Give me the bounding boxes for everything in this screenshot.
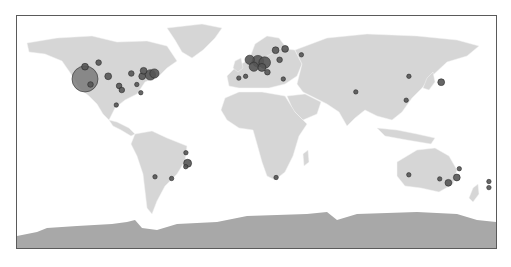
map-marker-us-midwest[interactable] xyxy=(129,71,135,77)
map-marker-india[interactable] xyxy=(354,90,358,94)
map-marker-brazil-south[interactable] xyxy=(184,165,188,169)
map-marker-us-florida[interactable] xyxy=(139,91,143,95)
map-marker-spain[interactable] xyxy=(243,74,247,78)
map-marker-us-central[interactable] xyxy=(119,87,125,93)
map-marker-canada-east[interactable] xyxy=(140,67,147,74)
land-greenland xyxy=(167,24,222,58)
map-marker-australia-south[interactable] xyxy=(438,177,442,181)
land-south-america xyxy=(131,131,187,214)
map-marker-south-china[interactable] xyxy=(404,98,408,102)
map-marker-brazil[interactable] xyxy=(184,151,188,155)
map-marker-scandinavia[interactable] xyxy=(272,47,279,54)
map-marker-portugal[interactable] xyxy=(237,76,241,80)
map-marker-australia-southeast[interactable] xyxy=(445,179,452,186)
map-marker-chile[interactable] xyxy=(153,175,157,179)
map-marker-new-zealand[interactable] xyxy=(487,179,491,183)
land-madagascar xyxy=(303,150,309,166)
map-marker-australia-north[interactable] xyxy=(457,167,461,171)
map-marker-switzerland[interactable] xyxy=(258,63,266,71)
map-marker-us-central[interactable] xyxy=(105,73,112,80)
map-marker-us-west[interactable] xyxy=(96,60,102,66)
map-marker-us-southeast[interactable] xyxy=(135,82,139,86)
map-frame[interactable] xyxy=(16,15,497,249)
land-central-america xyxy=(109,120,135,136)
map-marker-new-zealand-south[interactable] xyxy=(487,185,491,189)
map-marker-china[interactable] xyxy=(407,74,411,78)
map-marker-italy[interactable] xyxy=(265,69,271,75)
land-indonesia xyxy=(377,128,435,144)
map-marker-south-africa[interactable] xyxy=(274,175,278,179)
map-marker-russia-west[interactable] xyxy=(299,53,303,57)
map-marker-finland[interactable] xyxy=(282,46,289,53)
map-marker-france[interactable] xyxy=(249,62,258,71)
land-asia xyxy=(295,34,479,126)
map-marker-australia-west[interactable] xyxy=(407,173,411,177)
map-marker-argentina[interactable] xyxy=(169,176,173,180)
world-map[interactable] xyxy=(17,16,496,248)
map-marker-mexico[interactable] xyxy=(114,103,118,107)
map-marker-greece[interactable] xyxy=(281,77,285,81)
map-marker-us-northwest[interactable] xyxy=(82,63,89,70)
map-marker-us-northeast[interactable] xyxy=(150,69,159,78)
map-marker-poland[interactable] xyxy=(277,57,283,63)
map-marker-japan[interactable] xyxy=(438,79,445,86)
map-marker-us-southwest[interactable] xyxy=(88,82,94,88)
land-new-zealand xyxy=(469,184,479,202)
map-marker-australia-east[interactable] xyxy=(453,174,460,181)
land-antarctica xyxy=(17,212,496,248)
